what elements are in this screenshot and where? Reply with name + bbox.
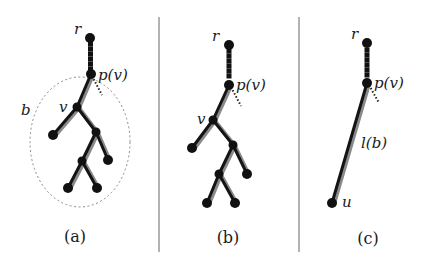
caption-a: (a) — [64, 227, 86, 246]
label-p-v: p(v) — [374, 74, 404, 92]
tree-contraction-figure: r p(v) v b (a) — [0, 0, 428, 269]
node-p-v — [224, 80, 234, 90]
label-p-v: p(v) — [98, 66, 128, 84]
node-p-v — [86, 69, 96, 79]
node-leaf — [202, 198, 212, 208]
node-r — [224, 40, 234, 50]
label-r: r — [351, 25, 359, 43]
label-l-b: l(b) — [361, 134, 387, 152]
node-inner — [215, 170, 224, 179]
node-inner — [92, 128, 101, 137]
node-leaf — [48, 130, 58, 140]
panel-b: r p(v) v (b) — [187, 27, 266, 247]
node-v — [73, 103, 82, 112]
dashed-root-edge — [227, 51, 232, 76]
panel-c: r p(v) l(b) u (c) — [327, 25, 404, 248]
label-v: v — [59, 98, 68, 116]
node-u — [327, 198, 337, 208]
dashed-root-edge — [365, 50, 370, 75]
node-inner — [229, 141, 238, 150]
dashed-root-edge — [88, 44, 93, 69]
label-r: r — [74, 20, 82, 38]
node-leaf — [187, 143, 197, 153]
node-p-v — [362, 78, 372, 88]
label-u: u — [342, 193, 352, 211]
node-v — [209, 116, 218, 125]
node-inner — [78, 157, 87, 166]
label-b: b — [21, 101, 31, 119]
node-leaf — [92, 183, 102, 193]
node-leaf — [103, 155, 113, 165]
node-leaf — [63, 183, 73, 193]
node-r — [362, 38, 372, 48]
label-r: r — [212, 27, 220, 45]
caption-b: (b) — [217, 228, 240, 247]
label-v: v — [197, 110, 206, 128]
caption-c: (c) — [357, 229, 378, 248]
label-p-v: p(v) — [236, 76, 266, 94]
node-leaf — [230, 198, 240, 208]
node-r — [85, 33, 95, 43]
node-leaf — [242, 169, 252, 179]
panel-a: r p(v) v b (a) — [21, 20, 130, 246]
